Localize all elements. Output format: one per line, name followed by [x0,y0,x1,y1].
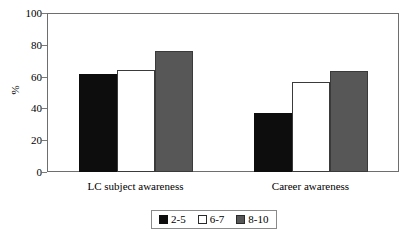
y-tick-label: 0 [16,167,42,177]
legend-swatch-icon [236,215,245,224]
bar [155,51,193,172]
bar [117,70,155,172]
bar [330,71,368,172]
legend-item: 6-7 [198,214,225,225]
x-axis-category-label: Career awareness [223,180,398,192]
bar [292,82,330,172]
y-axis-tick-labels: 100 80 60 40 20 0 [14,0,42,245]
legend-item-label: 8-10 [248,214,268,225]
y-tick-label: 40 [16,103,42,113]
y-tick-label: 60 [16,72,42,82]
legend-item-label: 2-5 [171,214,186,225]
y-tick-mark [42,172,47,173]
x-axis-category-label: LC subject awareness [48,180,223,192]
legend-swatch-icon [159,215,168,224]
y-tick-label: 80 [16,40,42,50]
y-tick-label: 100 [16,8,42,18]
bar [254,113,292,172]
legend-swatch-icon [198,215,207,224]
y-tick-label: 20 [16,135,42,145]
legend-item: 2-5 [159,214,186,225]
bars-container [48,14,398,172]
bar-chart: % 100 80 60 40 20 0 LC subject awareness… [0,0,417,245]
bar [79,74,117,172]
legend-item: 8-10 [236,214,268,225]
legend: 2-5 6-7 8-10 [151,210,277,229]
legend-item-label: 6-7 [210,214,225,225]
